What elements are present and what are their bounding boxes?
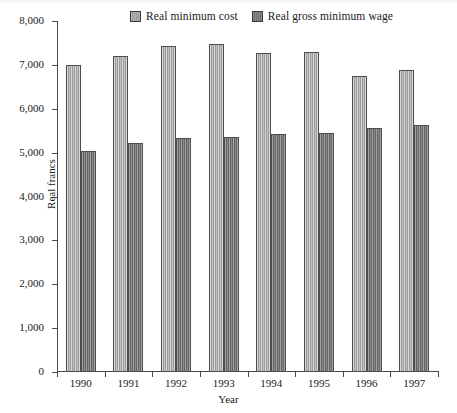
bar-group (66, 21, 96, 372)
x-axis-category-label: 1996 (347, 377, 387, 389)
x-axis-category-label: 1994 (251, 377, 291, 389)
light-hatched-swatch (130, 11, 141, 22)
bar (304, 52, 319, 372)
x-axis-category-label: 1992 (156, 377, 196, 389)
plot-area: 01,0002,0003,0004,0005,0006,0007,0008,00… (57, 21, 438, 372)
x-axis-category-label: 1995 (299, 377, 339, 389)
bar (128, 143, 143, 372)
y-axis-tick-label: 8,000 (19, 14, 44, 26)
bar-chart-figure: Real minimum cost Real gross minimum wag… (0, 0, 457, 413)
y-axis-tick-label: 5,000 (19, 146, 44, 158)
x-axis-category-label: 1990 (61, 377, 101, 389)
x-axis-category-label: 1993 (204, 377, 244, 389)
bar (161, 46, 176, 372)
bar (224, 137, 239, 372)
bar (209, 44, 224, 372)
bar-group (161, 21, 191, 372)
y-axis-tick-label: 3,000 (19, 233, 44, 245)
x-axis-category-label: 1997 (394, 377, 434, 389)
bar (256, 53, 271, 372)
bar-group (256, 21, 286, 372)
y-axis-tick-label: 6,000 (19, 102, 44, 114)
y-axis-tick-label: 0 (39, 365, 45, 377)
bar (81, 151, 96, 372)
y-axis-tick-label: 1,000 (19, 321, 44, 333)
bar (176, 138, 191, 372)
x-axis-tick (438, 371, 439, 377)
y-axis-title: Real francs (45, 124, 57, 244)
bar-group (304, 21, 334, 372)
dark-hatched-swatch (252, 11, 263, 22)
bar (319, 133, 334, 372)
x-axis-title: Year (0, 393, 457, 405)
bar (367, 128, 382, 372)
bar-group (113, 21, 143, 372)
y-axis-tick-label: 7,000 (19, 58, 44, 70)
bar-group (209, 21, 239, 372)
y-axis-tick-label: 4,000 (19, 190, 44, 202)
bar (113, 56, 128, 372)
bar (352, 76, 367, 372)
y-axis-tick-label: 2,000 (19, 277, 44, 289)
bar (414, 125, 429, 372)
scan-edge-band (0, 0, 457, 5)
bar-group (399, 21, 429, 372)
bar-group (352, 21, 382, 372)
bar (271, 134, 286, 372)
bar (399, 70, 414, 372)
bars-layer (57, 21, 438, 372)
x-axis-category-label: 1991 (108, 377, 148, 389)
bar (66, 65, 81, 372)
